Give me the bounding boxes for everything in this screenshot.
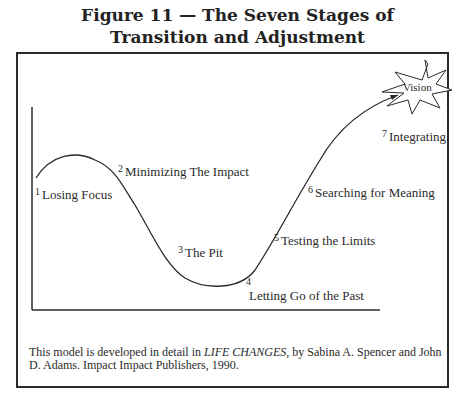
stage-6-label: 6Searching for Meaning bbox=[308, 184, 435, 201]
stage-2-label: 2Minimizing The Impact bbox=[118, 163, 249, 180]
vision-label: Vision bbox=[403, 81, 432, 93]
stage-7-label: 7Integrating bbox=[382, 128, 446, 145]
book-title: LIFE CHANGES bbox=[204, 345, 286, 359]
stage-4-label: Letting Go of the Past bbox=[249, 288, 364, 304]
stage-3-label: 3The Pit bbox=[178, 244, 223, 261]
stage-5-label: 5Testing the Limits bbox=[274, 232, 375, 249]
figure-caption: This model is developed in detail in LIF… bbox=[29, 346, 449, 372]
stage-4-number: 4 bbox=[246, 276, 251, 287]
stage-1-label: 1Losing Focus bbox=[35, 186, 112, 203]
